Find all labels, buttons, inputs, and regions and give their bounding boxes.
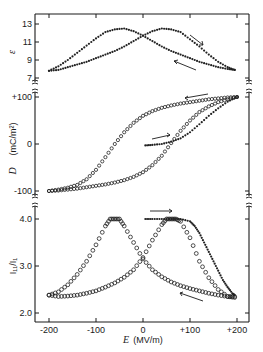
y-axis-label-displacement: D (mC/m²) <box>7 123 18 176</box>
data-series-points <box>48 27 236 72</box>
y-axis-label-epsilon: ε <box>6 50 17 54</box>
x-tick-label: +100 <box>180 325 200 335</box>
y-tick-label: 7 <box>27 73 32 83</box>
x-tick-label: 0 <box>140 325 145 335</box>
y-tick-label: -100 <box>14 186 32 196</box>
arrow-left-icon <box>180 292 203 301</box>
x-axis-label: E (MV/m) <box>122 334 163 345</box>
arrow-right-icon <box>150 209 172 213</box>
y-tick-label: +100 <box>12 92 32 102</box>
data-series-points <box>48 27 236 72</box>
arrow-left-icon <box>174 60 196 70</box>
y-axis-label-intensity-ratio: I₁₁/I₁ <box>8 258 18 275</box>
x-tick-label: -100 <box>87 325 105 335</box>
data-series-points <box>144 218 235 296</box>
y-tick-label: 3.0 <box>19 261 32 271</box>
data-series <box>47 27 239 299</box>
arrow-right-icon <box>190 35 203 45</box>
svg-text:(MV/m): (MV/m) <box>133 335 163 345</box>
direction-arrows <box>150 35 208 301</box>
svg-text:E: E <box>122 334 129 345</box>
y-tick-label: 13 <box>22 19 32 29</box>
data-series-points <box>47 217 236 298</box>
ferroelectric-hysteresis-figure: -200-1000+100+200131197+1000-1004.03.02.… <box>0 0 263 352</box>
y-tick-label: 11 <box>23 37 32 47</box>
svg-text:D: D <box>7 167 18 176</box>
y-tick-label: 4.0 <box>19 214 32 224</box>
y-tick-label: 9 <box>27 55 32 65</box>
x-tick-label: -200 <box>40 325 58 335</box>
data-series-points <box>47 95 238 192</box>
y-tick-label: 0 <box>27 139 32 149</box>
arrow-right-icon <box>152 133 170 139</box>
y-tick-label: 2.0 <box>19 308 32 318</box>
svg-text:(mC/m²): (mC/m²) <box>8 123 18 156</box>
x-tick-label: +200 <box>227 325 247 335</box>
data-series-points <box>47 217 236 299</box>
data-series-points <box>47 95 238 192</box>
